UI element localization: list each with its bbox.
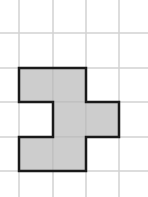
shaded-cell [53, 68, 86, 102]
grid-diagram [0, 0, 148, 197]
shaded-cell [86, 102, 119, 137]
shaded-cell [19, 137, 53, 171]
shaded-cell [19, 68, 53, 102]
shaded-cell [53, 102, 86, 137]
shape-cells [19, 68, 119, 171]
shaded-cell [53, 137, 86, 171]
